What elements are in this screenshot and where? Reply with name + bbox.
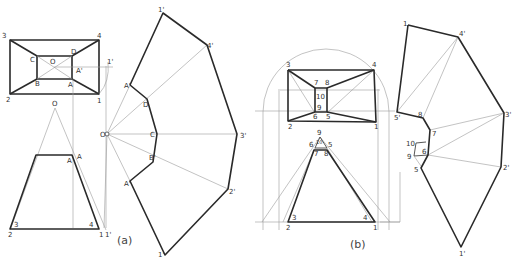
label: A' bbox=[76, 67, 83, 75]
label: 3' bbox=[240, 132, 246, 140]
label: 3 bbox=[286, 61, 290, 69]
label: 8 bbox=[324, 150, 328, 158]
label: 2 bbox=[286, 224, 290, 232]
label: 2 bbox=[6, 96, 10, 104]
label: 1' bbox=[158, 6, 164, 14]
figure-b-development bbox=[380, 25, 504, 247]
label: D bbox=[71, 48, 76, 56]
label: 4 bbox=[372, 61, 377, 69]
label: 7 bbox=[314, 150, 318, 158]
label: C bbox=[150, 131, 155, 139]
label: B' bbox=[149, 154, 156, 162]
label: C bbox=[30, 56, 35, 64]
label: 1 bbox=[403, 20, 407, 28]
label: 8 bbox=[418, 111, 422, 119]
label: O bbox=[100, 131, 106, 139]
label: 2 bbox=[8, 231, 12, 239]
label: A bbox=[67, 157, 72, 165]
label: 9 bbox=[317, 104, 321, 112]
label: 4 bbox=[97, 32, 102, 40]
figure-a-elevation-view bbox=[10, 108, 106, 230]
figure-b: 3 4 2 1 7 8 10 9 6 5 9 6 5 7 8 10 2 3 4 … bbox=[255, 20, 511, 258]
label: 1 bbox=[373, 224, 377, 232]
label: A bbox=[77, 153, 82, 161]
center-point bbox=[105, 132, 109, 136]
label: O bbox=[52, 100, 58, 108]
label: 5 bbox=[328, 141, 332, 149]
label: 2' bbox=[229, 188, 235, 196]
label: 1' bbox=[105, 231, 111, 239]
label: 1' bbox=[459, 250, 465, 258]
label: 3 bbox=[292, 214, 296, 222]
label: 1 bbox=[99, 231, 103, 239]
label: 5 bbox=[414, 166, 418, 174]
label: 1 bbox=[97, 97, 101, 105]
label: 1' bbox=[107, 58, 113, 66]
figure-a-development bbox=[104, 13, 237, 255]
label: 1 bbox=[374, 123, 378, 131]
label: 8 bbox=[325, 79, 329, 87]
label: 5 bbox=[326, 113, 330, 121]
label: 6 bbox=[313, 113, 318, 121]
label: 4 bbox=[89, 221, 94, 229]
label: 3' bbox=[505, 111, 511, 119]
label: 5' bbox=[394, 114, 400, 122]
label: 7 bbox=[314, 79, 318, 87]
label: 7 bbox=[432, 130, 436, 138]
figure-a-plan-view bbox=[10, 40, 113, 228]
label: 2' bbox=[503, 164, 509, 172]
label: 1' bbox=[158, 251, 164, 259]
label: B bbox=[35, 80, 40, 88]
label: 10 bbox=[406, 140, 415, 148]
label: 6 bbox=[309, 141, 314, 149]
label: 10 bbox=[316, 93, 325, 101]
figure-a-caption: (a) bbox=[117, 234, 132, 247]
figure-b-caption: (b) bbox=[350, 238, 366, 251]
label: 9 bbox=[407, 153, 411, 161]
label: 4 bbox=[363, 214, 368, 222]
label: O bbox=[50, 58, 56, 66]
label: 2 bbox=[288, 123, 292, 131]
label: A' bbox=[124, 82, 131, 90]
sheet-metal-development-drawing: 3 4 2 1 C D B A O A' 1' O A A 2 3 4 1 1' bbox=[0, 0, 521, 261]
label: 3 bbox=[2, 32, 6, 40]
label: 6 bbox=[422, 148, 427, 156]
label: 4' bbox=[207, 42, 213, 50]
label: D bbox=[143, 101, 148, 109]
label: 9 bbox=[317, 129, 321, 137]
label: A bbox=[68, 81, 73, 89]
label: A' bbox=[124, 180, 131, 188]
label: 3 bbox=[14, 221, 18, 229]
label: 10 bbox=[316, 139, 322, 145]
figure-a: 3 4 2 1 C D B A O A' 1' O A A 2 3 4 1 1' bbox=[2, 6, 246, 259]
label: 4' bbox=[459, 30, 465, 38]
